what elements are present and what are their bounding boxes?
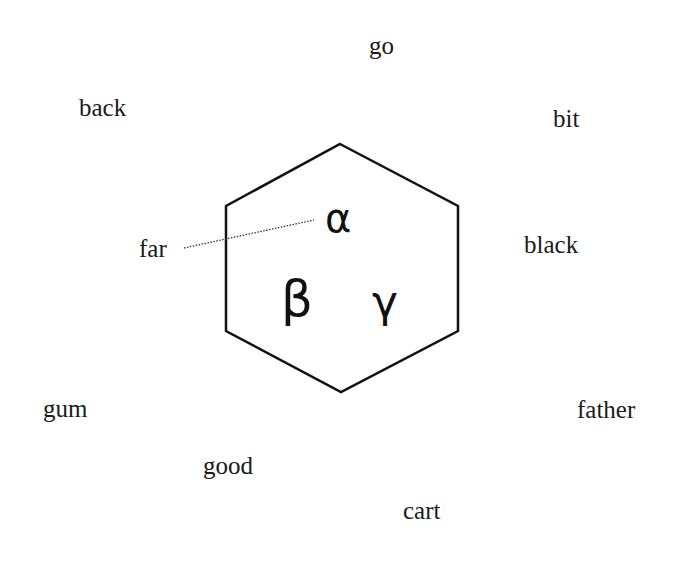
word-black: black bbox=[524, 232, 578, 257]
gamma-symbol: γ bbox=[372, 280, 398, 324]
word-back: back bbox=[79, 95, 126, 120]
word-gum: gum bbox=[43, 396, 87, 421]
word-father: father bbox=[577, 397, 635, 422]
hexagon-diagram bbox=[0, 0, 681, 562]
word-good: good bbox=[203, 453, 253, 478]
word-go: go bbox=[369, 33, 394, 58]
dotted-connector-far-to-alpha bbox=[184, 220, 314, 248]
alpha-symbol: α bbox=[325, 198, 351, 238]
beta-symbol: β bbox=[281, 274, 313, 324]
word-bit: bit bbox=[553, 106, 579, 131]
hexagon-outline bbox=[226, 144, 458, 392]
diagram-canvas: α β γ go back bit far black gum father g… bbox=[0, 0, 681, 562]
word-cart: cart bbox=[403, 498, 440, 523]
word-far: far bbox=[139, 236, 167, 261]
